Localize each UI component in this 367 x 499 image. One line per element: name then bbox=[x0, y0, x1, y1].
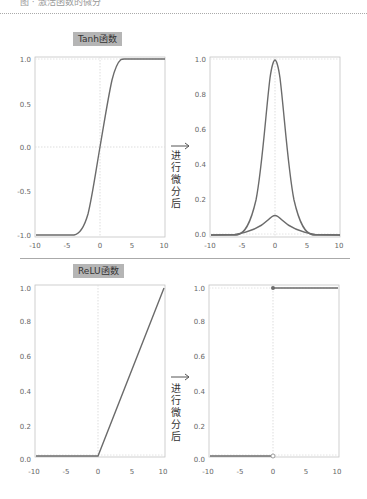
relu-chart: 1.0 0.8 0.6 0.4 0.2 0.0 -10 -5 0 5 10 bbox=[20, 285, 168, 476]
svg-text:0.6: 0.6 bbox=[20, 353, 32, 361]
svg-text:0.0: 0.0 bbox=[20, 144, 31, 152]
relu-arrow-icon bbox=[171, 374, 189, 380]
svg-text:0.0: 0.0 bbox=[194, 456, 205, 464]
tanh-chart: 1.0 0.5 0.0 -0.5 -1.0 -10 -5 0 5 10 bbox=[17, 56, 168, 250]
svg-text:10: 10 bbox=[333, 468, 342, 476]
relu-derivative-chart: 1.0 0.8 0.6 0.4 0.2 0.0 -10 -5 0 5 10 bbox=[194, 285, 342, 476]
svg-text:10: 10 bbox=[160, 242, 169, 250]
svg-text:1.0: 1.0 bbox=[195, 56, 206, 64]
tanh-arrow-icon bbox=[171, 143, 189, 149]
svg-text:10: 10 bbox=[159, 468, 168, 476]
svg-text:-10: -10 bbox=[204, 242, 215, 250]
svg-text:-5: -5 bbox=[63, 468, 70, 476]
svg-text:0.2: 0.2 bbox=[195, 196, 206, 204]
svg-text:-5: -5 bbox=[239, 242, 246, 250]
svg-text:10: 10 bbox=[335, 242, 344, 250]
svg-text:0.2: 0.2 bbox=[194, 423, 205, 431]
svg-text:5: 5 bbox=[305, 242, 309, 250]
svg-text:5: 5 bbox=[130, 468, 134, 476]
svg-text:0.6: 0.6 bbox=[194, 353, 206, 361]
charts-canvas: 1.0 0.5 0.0 -0.5 -1.0 -10 -5 0 5 10 1.0 … bbox=[0, 0, 367, 499]
svg-text:0.0: 0.0 bbox=[195, 231, 206, 239]
svg-text:-10: -10 bbox=[28, 468, 39, 476]
svg-text:-0.5: -0.5 bbox=[17, 188, 31, 196]
svg-text:1.0: 1.0 bbox=[20, 56, 31, 64]
svg-text:0.8: 0.8 bbox=[194, 318, 205, 326]
svg-text:0.6: 0.6 bbox=[195, 126, 207, 134]
svg-text:0: 0 bbox=[98, 242, 102, 250]
svg-text:0.4: 0.4 bbox=[195, 161, 207, 169]
tanh-derivative-chart: 1.0 0.8 0.6 0.4 0.2 0.0 -10 -5 0 5 10 bbox=[195, 56, 344, 250]
open-circle-marker bbox=[271, 454, 275, 458]
svg-text:0.8: 0.8 bbox=[195, 91, 206, 99]
svg-text:5: 5 bbox=[304, 468, 308, 476]
svg-text:-5: -5 bbox=[64, 242, 71, 250]
svg-text:-10: -10 bbox=[202, 468, 213, 476]
svg-text:5: 5 bbox=[130, 242, 134, 250]
svg-text:0: 0 bbox=[271, 468, 275, 476]
svg-text:-10: -10 bbox=[29, 242, 40, 250]
svg-text:0: 0 bbox=[273, 242, 277, 250]
filled-circle-marker bbox=[271, 286, 275, 290]
svg-text:-1.0: -1.0 bbox=[17, 232, 31, 240]
svg-text:1.0: 1.0 bbox=[194, 285, 205, 293]
svg-text:0.5: 0.5 bbox=[20, 101, 31, 109]
svg-text:0.2: 0.2 bbox=[20, 423, 31, 431]
svg-text:0.4: 0.4 bbox=[20, 388, 32, 396]
svg-text:0.8: 0.8 bbox=[20, 318, 31, 326]
svg-text:0.0: 0.0 bbox=[20, 456, 31, 464]
svg-text:0: 0 bbox=[96, 468, 100, 476]
svg-text:1.0: 1.0 bbox=[20, 285, 31, 293]
svg-text:0.4: 0.4 bbox=[194, 388, 206, 396]
svg-text:-5: -5 bbox=[237, 468, 244, 476]
